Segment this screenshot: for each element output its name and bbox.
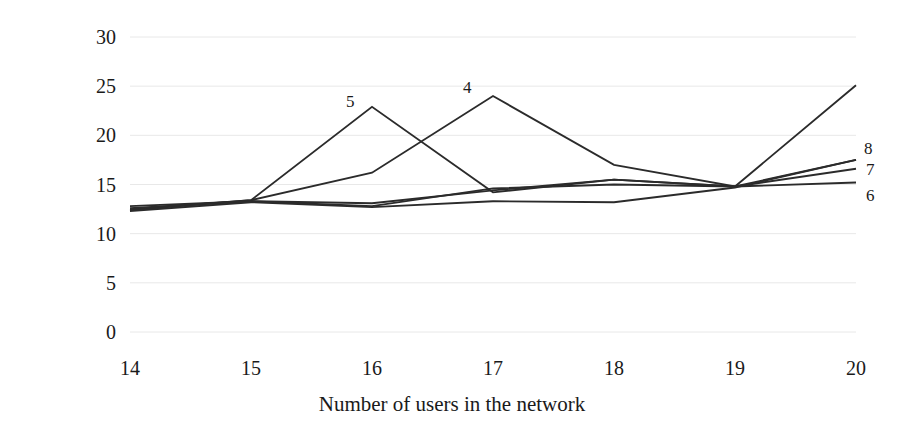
series-label-6: 6 — [866, 187, 875, 204]
data-lines — [130, 85, 856, 211]
series-label-8: 8 — [864, 140, 873, 157]
chart-figure: Time to the first frame, s 051015202530 … — [0, 0, 904, 446]
series-label-5: 5 — [346, 93, 355, 110]
data-line-series-5 — [130, 107, 856, 210]
x-axis-title: Number of users in the network — [0, 392, 904, 417]
series-label-4: 4 — [463, 79, 472, 96]
plot-area — [0, 0, 904, 446]
series-label-7: 7 — [866, 161, 875, 178]
data-line-series-8 — [130, 160, 856, 211]
x-axis-title-text: Number of users in the network — [319, 392, 586, 416]
